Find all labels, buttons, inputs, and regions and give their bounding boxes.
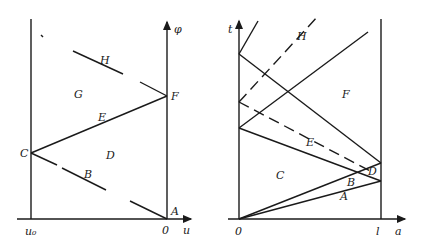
line-a-upper (239, 181, 381, 219)
origin-label: 0 (162, 224, 169, 237)
region-h-label: H (99, 54, 110, 67)
region-c-label: C (20, 147, 29, 160)
tick-mark (41, 35, 43, 37)
region-b-label: B (346, 176, 355, 189)
line-reflected-2 (239, 21, 258, 54)
region-a-label: A (339, 190, 348, 203)
phi-label: φ (174, 23, 182, 36)
region-e-label: E (97, 111, 106, 124)
l-label: l (376, 225, 380, 238)
region-h-label: H (296, 30, 307, 43)
region-e-label: E (305, 136, 314, 149)
u0-label: u₀ (25, 225, 37, 238)
region-f-label: F (170, 90, 179, 103)
origin-label: 0 (235, 225, 242, 238)
line-h-dashed (239, 15, 319, 102)
line-b-seg1 (31, 153, 57, 165)
line-h-seg1 (73, 51, 123, 74)
line-reflected-1 (239, 32, 368, 128)
region-d-label: D (105, 149, 115, 162)
line-a (130, 201, 167, 219)
right-diagram: t a l 0 A B C D E F H (228, 15, 405, 238)
region-a-label: A (170, 205, 179, 218)
t-label: t (228, 23, 233, 36)
left-diagram: φ u u₀ 0 A B C D E F G H (17, 19, 191, 238)
u-label: u (183, 224, 190, 237)
region-g-label: G (74, 88, 83, 101)
line-b-upper (239, 163, 381, 219)
a-label: a (395, 225, 402, 238)
figure: φ u u₀ 0 A B C D E F G H t a l 0 A B C D… (0, 0, 424, 245)
region-f-label: F (341, 88, 350, 101)
line-h-seg2 (140, 82, 167, 96)
region-c-label: C (276, 169, 285, 182)
region-d-label: D (367, 165, 377, 178)
line-c-f (31, 96, 167, 153)
region-b-label: B (83, 168, 92, 181)
